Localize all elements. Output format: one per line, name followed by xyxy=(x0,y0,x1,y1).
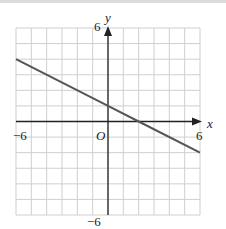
coordinate-plane xyxy=(0,0,226,229)
y-max-tick-label: 6 xyxy=(94,20,101,33)
x-max-tick-label: 6 xyxy=(196,129,203,142)
x-min-tick-label: −6 xyxy=(13,129,27,142)
y-min-tick-label: −6 xyxy=(87,215,101,228)
y-axis-label: y xyxy=(105,11,111,24)
origin-label: O xyxy=(96,129,105,142)
axes xyxy=(16,26,202,215)
x-axis-label: x xyxy=(207,117,213,130)
